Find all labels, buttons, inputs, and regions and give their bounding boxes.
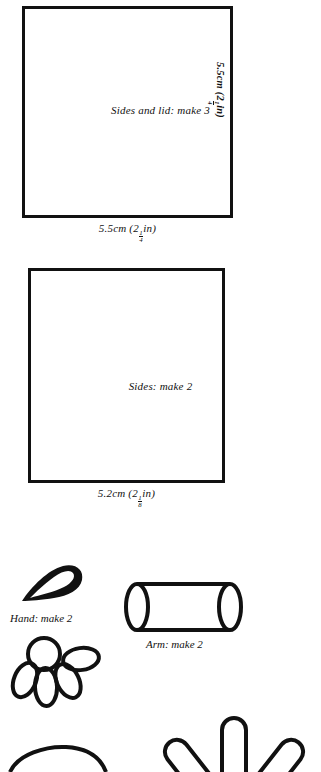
pattern-piece-hand-shape: [18, 562, 86, 612]
dimension-height-sides-and-lid: 5.5cm (214in): [207, 62, 226, 118]
pattern-piece-sides-label: Sides: make 2: [0, 380, 321, 392]
pattern-piece-foot-shape: [8, 632, 104, 712]
pattern-piece-fingers-shape: [160, 706, 321, 772]
dimension-imperial-whole: 2: [132, 487, 138, 499]
pattern-piece-sides-and-lid-label: Sides and lid: make 3: [0, 104, 321, 116]
dimension-metric-value: 5.5cm: [99, 222, 127, 234]
pattern-piece-arm-shape: [120, 576, 250, 642]
dimension-metric-value: 5.2cm: [98, 487, 126, 499]
pattern-sheet: Sides and lid: make 3 5.5cm (214in) 5.5c…: [0, 0, 321, 772]
pattern-piece-arm-label: Arm: make 2: [146, 638, 203, 650]
dimension-imperial-unit: in: [142, 487, 151, 499]
pattern-piece-partial-shape: [0, 742, 120, 772]
partial-curve-icon: [0, 742, 120, 772]
arm-cylinder-icon: [120, 576, 250, 638]
dimension-imperial-unit: in: [143, 222, 152, 234]
foot-petals-icon: [8, 632, 104, 708]
dimension-imperial-whole: 2: [215, 95, 226, 100]
dimension-imperial-unit: in: [215, 105, 226, 114]
dimension-width-sides: 5.2cm (218in): [0, 487, 253, 508]
dimension-metric-value: 5.5cm: [215, 62, 226, 89]
dimension-imperial-whole: 2: [133, 222, 139, 234]
dimension-width-sides-and-lid: 5.5cm (214in): [0, 222, 255, 243]
pattern-piece-hand-label: Hand: make 2: [10, 612, 72, 624]
fingers-spokes-icon: [160, 706, 321, 772]
hand-teardrop-icon: [18, 562, 86, 608]
pattern-piece-sides: [28, 268, 225, 483]
